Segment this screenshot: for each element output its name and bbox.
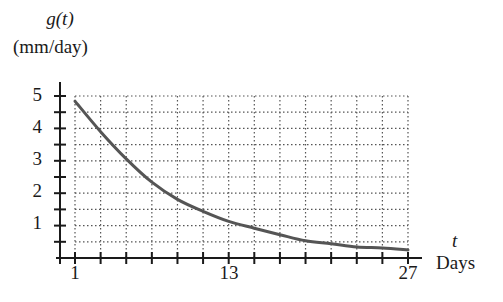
grid-lines	[75, 96, 408, 258]
y-tick-label-2: 2	[22, 180, 42, 202]
y-tick-label-5: 5	[22, 84, 42, 106]
y-axis-unit-label: (mm/day)	[13, 36, 88, 58]
x-axis-variable-label: t	[452, 230, 457, 252]
y-tick-label-1: 1	[22, 212, 42, 234]
data-curve-g-of-t	[75, 101, 408, 250]
x-tick-label-27: 27	[388, 262, 428, 284]
axes	[54, 82, 422, 264]
y-tick-label-4: 4	[22, 116, 42, 138]
x-tick-label-1: 1	[55, 262, 95, 284]
y-axis-variable-label: g(t)	[40, 8, 80, 30]
x-tick-label-13: 13	[209, 262, 249, 284]
x-axis-unit-label: Days	[436, 252, 475, 274]
y-tick-label-3: 3	[22, 148, 42, 170]
